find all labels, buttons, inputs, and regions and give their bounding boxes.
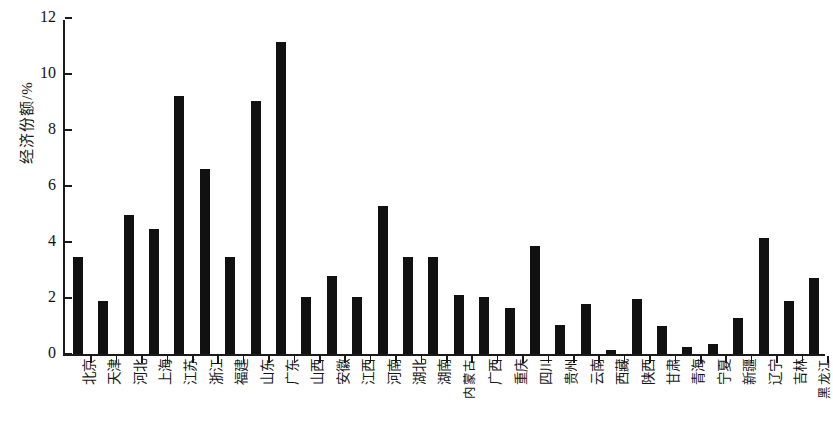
bar xyxy=(174,96,184,354)
x-axis-label: 湖南 xyxy=(438,358,452,385)
bar xyxy=(225,257,235,354)
bar xyxy=(301,297,311,354)
x-axis-label: 湖北 xyxy=(413,358,427,385)
bar xyxy=(378,206,388,354)
x-axis-label: 上海 xyxy=(159,358,173,385)
x-axis-label: 广东 xyxy=(286,358,300,385)
bar xyxy=(251,101,261,354)
bar xyxy=(124,215,134,354)
bar xyxy=(428,257,438,354)
bar xyxy=(505,308,515,354)
x-axis-label: 黑龙江 xyxy=(819,358,832,399)
x-axis-label: 陕西 xyxy=(642,358,656,385)
bar xyxy=(403,257,413,354)
y-axis-title: 经济份额/% xyxy=(15,38,36,208)
bar xyxy=(530,246,540,354)
bar xyxy=(809,278,819,354)
x-axis-label: 福建 xyxy=(235,358,249,385)
y-axis-line xyxy=(63,20,65,356)
bar xyxy=(708,344,718,354)
bar xyxy=(352,297,362,354)
x-axis-label: 新疆 xyxy=(743,358,757,385)
y-axis-tick: 0 xyxy=(65,353,72,355)
x-axis-label: 河南 xyxy=(388,358,402,385)
x-axis-label: 吉林 xyxy=(794,358,808,385)
x-axis-label: 浙江 xyxy=(210,358,224,385)
x-axis-label: 河北 xyxy=(134,358,148,385)
y-axis-tick-label: 8 xyxy=(48,121,56,137)
x-axis-label: 重庆 xyxy=(515,358,529,385)
x-axis-label: 甘肃 xyxy=(667,358,681,385)
bar xyxy=(759,238,769,354)
x-axis-label: 四川 xyxy=(540,358,554,385)
x-axis-label: 宁夏 xyxy=(718,358,732,385)
x-axis-line xyxy=(63,354,825,356)
y-axis-tick: 8 xyxy=(65,129,72,131)
x-axis-label: 青海 xyxy=(692,358,706,385)
bar xyxy=(784,301,794,354)
x-axis-label: 内蒙古 xyxy=(464,358,477,399)
bar xyxy=(200,169,210,354)
x-axis-label: 贵州 xyxy=(565,358,579,385)
y-axis-tick: 6 xyxy=(65,185,72,187)
bar xyxy=(454,295,464,354)
x-axis-label: 安徽 xyxy=(337,358,351,385)
bar-chart-figure: 经济份额/% 024681012 北京天津河北上海江苏浙江福建山东广东山西安徽江… xyxy=(0,0,833,423)
bar xyxy=(581,304,591,354)
x-axis-label: 山东 xyxy=(261,358,275,385)
bar xyxy=(479,297,489,354)
x-axis-label: 江西 xyxy=(362,358,376,385)
y-axis-tick-label: 10 xyxy=(40,65,56,81)
y-axis-tick-label: 2 xyxy=(48,289,56,305)
y-axis-tick-label: 6 xyxy=(48,177,56,193)
y-axis-tick: 2 xyxy=(65,297,72,299)
bar xyxy=(73,257,83,354)
bar xyxy=(682,347,692,354)
x-axis-labels: 北京天津河北上海江苏浙江福建山东广东山西安徽江西河南湖北湖南内蒙古广西重庆四川贵… xyxy=(63,358,825,423)
bar xyxy=(632,299,642,354)
bar xyxy=(606,350,616,354)
x-axis-label: 云南 xyxy=(591,358,605,385)
y-axis-tick-label: 4 xyxy=(48,233,56,249)
x-axis-label: 辽宁 xyxy=(769,358,783,385)
y-axis-tick: 12 xyxy=(65,17,72,19)
bar xyxy=(98,301,108,354)
x-axis-label: 北京 xyxy=(83,358,97,385)
x-axis-label: 山西 xyxy=(311,358,325,385)
bar xyxy=(327,276,337,354)
bar xyxy=(657,326,667,354)
x-axis-label: 江苏 xyxy=(184,358,198,385)
bar xyxy=(555,325,565,354)
x-axis-label: 广西 xyxy=(489,358,503,385)
x-axis-label: 西藏 xyxy=(616,358,630,385)
bar xyxy=(149,229,159,354)
bar xyxy=(733,318,743,354)
y-axis-tick: 4 xyxy=(65,241,72,243)
plot-area: 024681012 xyxy=(63,20,825,356)
bar xyxy=(276,42,286,354)
x-axis-label: 天津 xyxy=(108,358,122,385)
y-axis-tick: 10 xyxy=(65,73,72,75)
y-axis-tick-label: 0 xyxy=(48,345,56,361)
y-axis-tick-label: 12 xyxy=(40,9,56,25)
